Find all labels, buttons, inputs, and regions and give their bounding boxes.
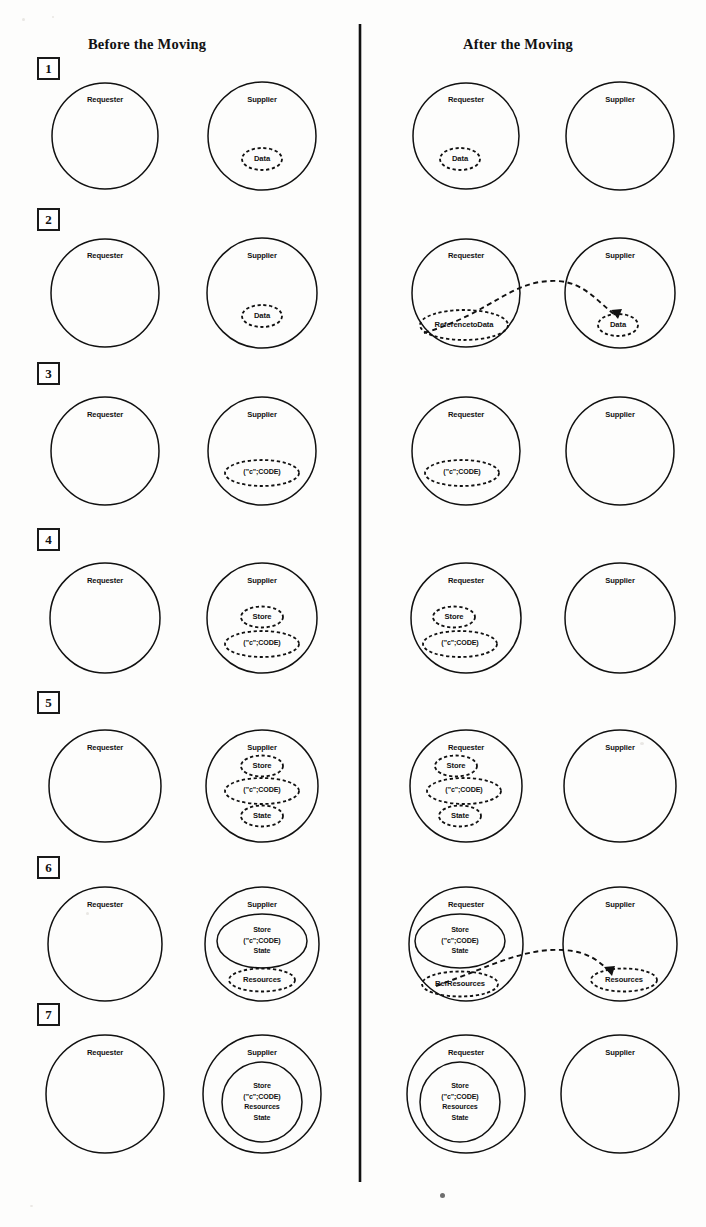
shape-label: Store("c";CODE)State [441,925,478,957]
shape-label: State [253,811,271,821]
shape-label: Store [447,761,466,771]
shape-label: Requester [448,576,484,586]
shape-label: Supplier [605,576,635,586]
header-before: Before the Moving [88,36,206,53]
shape-label: Supplier [605,1048,635,1058]
shape-label: ("c";CODE) [243,468,280,478]
shape-label: Data [254,311,270,321]
shape-label: Resources [243,975,281,985]
row-number-2: 2 [37,208,60,231]
shape-label: Supplier [247,95,277,105]
shape-label: Supplier [605,95,635,105]
shape-label: Requester [87,251,123,261]
shape-label: Store("c";CODE)State [243,925,280,957]
shape-label: Requester [448,900,484,910]
shape-label: ("c";CODE) [243,639,280,649]
shape-label: Requester [448,743,484,753]
row-number-4: 4 [37,528,60,551]
shape-label: Supplier [247,410,277,420]
shape-label: Store [253,761,272,771]
shape-label: Supplier [247,900,277,910]
row-number-1: 1 [37,57,60,80]
shape-label: Requester [87,900,123,910]
figure-canvas: Before the Moving After the Moving 1 2 3… [0,0,706,1227]
row-number-6: 6 [37,856,60,879]
shape-label: Supplier [247,743,277,753]
shape-label: RefResources [435,979,485,989]
row-number-7: 7 [37,1003,60,1026]
shape-label: Store("c";CODE)ResourcesState [243,1081,280,1123]
shape-label: ("c";CODE) [445,786,482,796]
shape-label: Requester [448,410,484,420]
row-number-3: 3 [37,362,60,385]
shape-label: Requester [448,1048,484,1058]
shape-label: ("c";CODE) [243,786,280,796]
shape-label: ("c";CODE) [443,468,480,478]
shape-label: ReferencetoData [435,320,494,330]
shape-label: Data [610,320,626,330]
shape-label: Requester [87,410,123,420]
shape-label: Supplier [605,410,635,420]
shape-label: Resources [605,975,643,985]
row-number-5: 5 [37,691,60,714]
diagram-svg [0,0,706,1227]
shape-label: Store [445,612,464,622]
header-after: After the Moving [463,36,573,53]
shape-label: Requester [448,95,484,105]
shape-label: Requester [87,1048,123,1058]
shape-label: Data [254,154,270,164]
shape-label: Supplier [247,1048,277,1058]
shape-label: Requester [87,95,123,105]
shape-label: Supplier [247,576,277,586]
shape-label: Requester [87,743,123,753]
shape-label: Requester [448,251,484,261]
shape-label: ("c";CODE) [441,639,478,649]
shape-label: Supplier [247,251,277,261]
shape-label: Supplier [605,251,635,261]
shape-label: Store [253,612,272,622]
shape-label: State [451,811,469,821]
shape-label: Requester [87,576,123,586]
shape-label: Supplier [605,743,635,753]
shape-label: Store("c";CODE)ResourcesState [441,1081,478,1123]
shape-label: Data [452,154,468,164]
shape-label: Supplier [605,900,635,910]
